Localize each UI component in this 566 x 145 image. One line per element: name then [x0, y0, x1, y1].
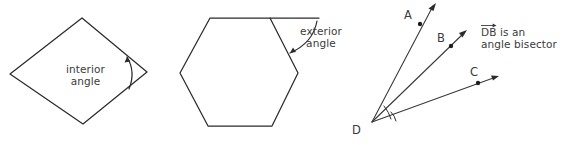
- ray-db-notation: DB: [481, 26, 497, 39]
- hexagon-shape: [180, 18, 298, 126]
- ray-da-line: [372, 6, 433, 122]
- angle-bisector-note-line1: DB is an: [481, 26, 557, 39]
- point-c-dot: [476, 81, 480, 85]
- angle-bisector-panel: [372, 3, 499, 122]
- exterior-angle-panel: [180, 18, 319, 126]
- exterior-angle-annotation-line2: angle: [300, 38, 342, 50]
- point-a-dot: [418, 22, 422, 26]
- point-label-a: A: [404, 9, 412, 22]
- angle-bisector-note-text1: is an: [500, 26, 525, 38]
- ray-dc-arrowhead: [491, 76, 499, 81]
- exterior-angle-annotation: exterior angle: [300, 26, 342, 50]
- point-b-dot: [449, 44, 453, 48]
- point-label-d: D: [352, 124, 361, 137]
- point-label-b: B: [437, 32, 445, 45]
- angle-bisector-note-line2: angle bisector: [481, 39, 557, 51]
- interior-angle-annotation-line2: angle: [66, 76, 105, 88]
- ray-overbar-arrow-icon: [481, 23, 497, 28]
- point-label-c: C: [470, 66, 478, 79]
- interior-angle-annotation-line1: interior: [66, 64, 105, 76]
- exterior-angle-annotation-line1: exterior: [300, 26, 342, 38]
- interior-angle-annotation: interior angle: [66, 64, 105, 88]
- ray-da-arrowhead: [429, 3, 437, 11]
- angle-bisector-note: DB is an angle bisector: [481, 26, 557, 51]
- geometry-figure: interior angle exterior angle A B C D DB…: [0, 0, 566, 145]
